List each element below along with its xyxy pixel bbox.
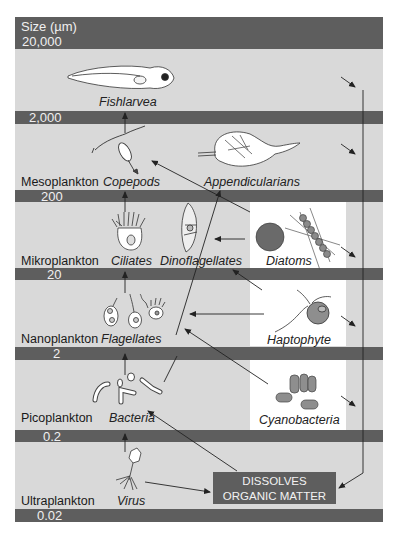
diatom-icon bbox=[256, 208, 340, 270]
haptophyte-icon bbox=[275, 290, 331, 332]
copepod-icon bbox=[92, 126, 145, 174]
ciliate-icon bbox=[112, 212, 145, 250]
dinoflagellate-icon bbox=[182, 203, 197, 252]
virus-icon bbox=[116, 448, 141, 490]
food-web-illustration bbox=[0, 0, 395, 537]
fish-larva-icon bbox=[68, 66, 174, 88]
cyanobacteria-icon bbox=[276, 374, 318, 409]
appendicularian-icon bbox=[198, 132, 300, 166]
bacteria-icon bbox=[95, 373, 160, 402]
flagellates-icon bbox=[104, 294, 165, 328]
